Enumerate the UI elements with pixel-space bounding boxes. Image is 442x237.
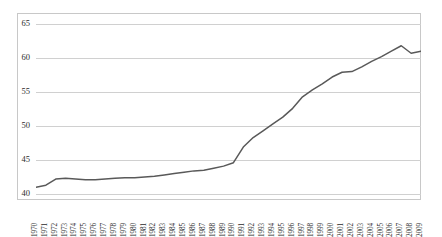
x-tick-1972: 1972	[51, 223, 59, 237]
x-tick-2005: 2005	[377, 223, 385, 237]
x-tick-2002: 2002	[347, 223, 355, 237]
x-tick-1980: 1980	[130, 223, 138, 237]
y-tick-60: 60	[8, 53, 30, 62]
x-tick-1997: 1997	[298, 223, 306, 237]
x-tick-2006: 2006	[386, 223, 394, 237]
x-tick-1987: 1987	[199, 223, 207, 237]
x-tick-1978: 1978	[110, 223, 118, 237]
x-tick-1977: 1977	[100, 223, 108, 237]
x-tick-2008: 2008	[406, 223, 414, 237]
x-tick-1974: 1974	[70, 223, 78, 237]
x-tick-1993: 1993	[258, 223, 266, 237]
x-tick-1981: 1981	[140, 223, 148, 237]
x-tick-1973: 1973	[61, 223, 69, 237]
x-tick-1976: 1976	[90, 223, 98, 237]
x-tick-1995: 1995	[278, 223, 286, 237]
x-tick-1988: 1988	[209, 223, 217, 237]
x-tick-2004: 2004	[367, 223, 375, 237]
x-tick-2000: 2000	[327, 223, 335, 237]
x-tick-1998: 1998	[307, 223, 315, 237]
plot-area	[36, 24, 421, 194]
series-line	[36, 24, 421, 194]
line-chart: 404550556065 197019711972197319741975197…	[0, 0, 442, 237]
x-tick-1982: 1982	[149, 223, 157, 237]
gridline-40	[36, 194, 421, 195]
y-tick-50: 50	[8, 121, 30, 130]
x-tick-1970: 1970	[31, 223, 39, 237]
x-tick-2007: 2007	[396, 223, 404, 237]
x-tick-1992: 1992	[248, 223, 256, 237]
y-tick-65: 65	[8, 19, 30, 28]
y-tick-45: 45	[8, 155, 30, 164]
x-tick-1989: 1989	[219, 223, 227, 237]
x-tick-1971: 1971	[41, 223, 49, 237]
x-tick-2009: 2009	[416, 223, 424, 237]
x-tick-1999: 1999	[317, 223, 325, 237]
x-tick-1979: 1979	[120, 223, 128, 237]
series-1-polyline	[36, 46, 421, 187]
x-tick-1986: 1986	[189, 223, 197, 237]
x-axis-tick-labels: 1970197119721973197419751976197719781979…	[36, 196, 421, 237]
x-tick-2003: 2003	[357, 223, 365, 237]
x-tick-1984: 1984	[169, 223, 177, 237]
x-tick-1983: 1983	[159, 223, 167, 237]
x-tick-1994: 1994	[268, 223, 276, 237]
x-tick-1996: 1996	[288, 223, 296, 237]
x-tick-1975: 1975	[80, 223, 88, 237]
y-tick-40: 40	[8, 189, 30, 198]
x-tick-1985: 1985	[179, 223, 187, 237]
x-tick-1991: 1991	[238, 223, 246, 237]
y-tick-55: 55	[8, 87, 30, 96]
x-tick-1990: 1990	[228, 223, 236, 237]
x-tick-2001: 2001	[337, 223, 345, 237]
